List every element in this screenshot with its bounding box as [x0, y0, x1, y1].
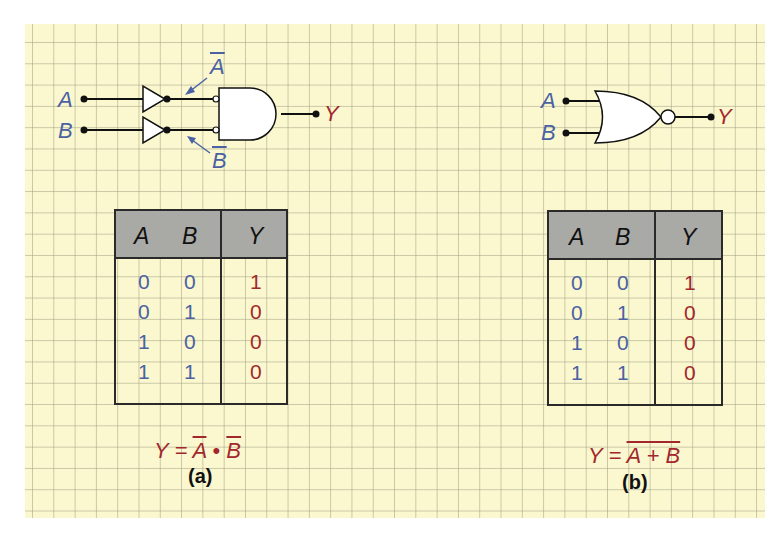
cell: 0 [250, 300, 262, 324]
cell: 1 [250, 270, 262, 294]
cell: 0 [684, 361, 696, 385]
nor-input-b-label: B [541, 122, 556, 144]
nor-output-y-label: Y [717, 106, 732, 128]
cell: 1 [184, 300, 196, 324]
input-b-label: B [58, 120, 73, 142]
header-b: B [182, 223, 197, 250]
cell: 1 [184, 360, 196, 384]
cell: 0 [138, 270, 150, 294]
caption-a: (a) [188, 465, 212, 488]
cell: 0 [250, 360, 262, 384]
cell: 0 [184, 270, 196, 294]
expr-not-a-or-b: A + B [627, 443, 681, 468]
cell: 0 [684, 331, 696, 355]
header-y: Y [681, 224, 696, 251]
not-a-label: A [210, 56, 225, 78]
expr-not-b: B [226, 438, 241, 463]
cell: 1 [684, 271, 696, 295]
output-y-label: Y [324, 103, 339, 125]
cell: 1 [138, 360, 150, 384]
cell: 1 [617, 301, 629, 325]
nor-input-a-label: A [541, 90, 556, 112]
cell: 0 [617, 271, 629, 295]
expr-lhs: Y = [588, 443, 621, 468]
cell: 0 [250, 330, 262, 354]
cell: 1 [617, 361, 629, 385]
not-gate-b [143, 117, 165, 143]
cell: 0 [617, 331, 629, 355]
cell: 1 [138, 330, 150, 354]
cell: 0 [184, 330, 196, 354]
header-a: A [134, 223, 149, 250]
not-gate-a [143, 86, 165, 112]
expression-a: Y = A • B [154, 438, 241, 464]
truth-table-b: A B Y 0 0 1 0 1 0 1 0 0 1 1 0 [547, 210, 723, 406]
cell: 0 [138, 300, 150, 324]
input-a-label: A [58, 89, 73, 111]
caption-b: (b) [622, 471, 648, 494]
cell: 1 [571, 361, 583, 385]
expression-b: Y = A + B [588, 443, 680, 469]
header-y: Y [248, 223, 263, 250]
expr-lhs: Y = [154, 438, 187, 463]
header-b: B [615, 224, 630, 251]
cell: 0 [571, 271, 583, 295]
truth-table-a: A B Y 0 0 1 0 1 0 1 0 0 1 1 0 [114, 209, 288, 405]
nor-gate [595, 91, 661, 143]
cell: 0 [571, 301, 583, 325]
not-b-label: B [212, 150, 227, 172]
expr-and-dot: • [213, 438, 221, 463]
cell: 1 [571, 331, 583, 355]
header-a: A [569, 224, 584, 251]
expr-not-a: A [193, 438, 207, 463]
cell: 0 [684, 301, 696, 325]
and-gate [219, 88, 276, 140]
